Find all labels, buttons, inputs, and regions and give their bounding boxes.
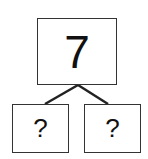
- part-value-left: ?: [33, 113, 47, 144]
- part-box-right: ?: [84, 104, 141, 153]
- part-box-left: ?: [12, 104, 69, 153]
- whole-box: 7: [37, 18, 117, 85]
- part-value-right: ?: [105, 113, 119, 144]
- whole-value: 7: [64, 25, 90, 79]
